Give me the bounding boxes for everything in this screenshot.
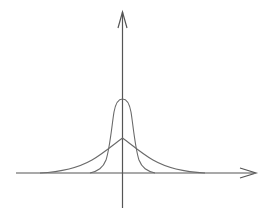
diagram-canvas <box>0 0 273 220</box>
y-axis <box>118 12 127 208</box>
x-axis <box>16 168 256 178</box>
distribution-diagram <box>0 0 273 220</box>
